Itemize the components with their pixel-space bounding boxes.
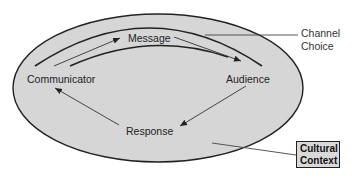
channel-choice-callout: Channel Choice (301, 27, 340, 53)
channel-choice-line1: Channel (301, 27, 340, 40)
node-audience: Audience (226, 74, 270, 85)
node-response: Response (126, 126, 173, 137)
channel-choice-line2: Choice (301, 40, 340, 53)
cultural-context-line2: Context (300, 155, 339, 167)
cultural-context-callout-box: Cultural Context (296, 141, 340, 168)
node-message: Message (128, 33, 171, 44)
node-communicator: Communicator (27, 74, 95, 85)
cultural-context-line1: Cultural (300, 143, 339, 155)
